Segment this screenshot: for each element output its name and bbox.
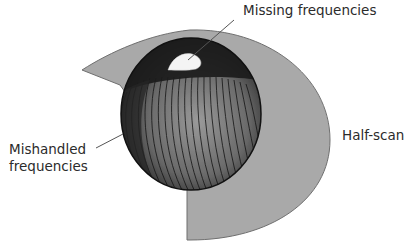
mishandled-frequencies-label: Mishandled frequencies xyxy=(9,141,88,175)
frequency-diagram xyxy=(0,0,404,247)
mishandled-label-line2: frequencies xyxy=(9,158,88,175)
mishandled-leader-line xyxy=(96,134,123,148)
mishandled-label-line1: Mishandled xyxy=(9,141,88,158)
missing-frequencies-label: Missing frequencies xyxy=(243,2,376,19)
half-scan-label: Half-scan xyxy=(342,127,404,144)
